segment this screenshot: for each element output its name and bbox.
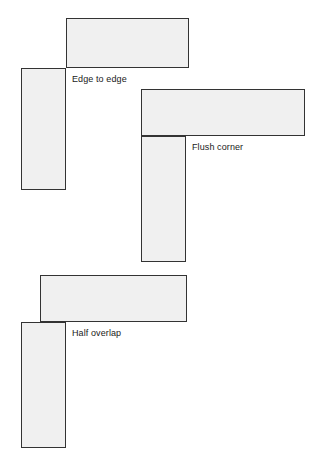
diagram-canvas: Edge to edge Flush corner Half overlap [0, 0, 332, 466]
flush-corner-horizontal-bar[interactable] [141, 89, 305, 136]
edge-to-edge-vertical-bar[interactable] [21, 68, 66, 190]
label-half-overlap: Half overlap [72, 328, 121, 339]
edge-to-edge-horizontal-bar[interactable] [66, 18, 189, 68]
label-edge-to-edge: Edge to edge [72, 74, 127, 85]
half-overlap-vertical-bar[interactable] [21, 322, 66, 448]
half-overlap-horizontal-bar[interactable] [40, 275, 187, 322]
flush-corner-vertical-bar[interactable] [141, 136, 186, 262]
label-flush-corner: Flush corner [192, 142, 243, 153]
